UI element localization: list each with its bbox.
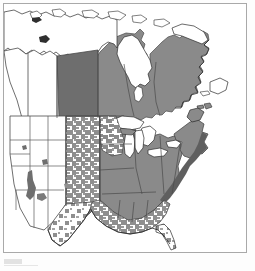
legend-rule-artifact <box>4 265 38 266</box>
region-saskatchewan-core <box>57 50 98 118</box>
legend-swatch-artifact <box>4 259 22 264</box>
figure-container: North America species distribution map <box>0 0 255 271</box>
map-frame <box>3 3 247 253</box>
figure-title: North America species distribution map <box>0 21 1 22</box>
north-america-distribution-map <box>4 4 246 252</box>
figure-caption <box>0 16 1 17</box>
isolated-dot-colorado <box>42 159 48 165</box>
